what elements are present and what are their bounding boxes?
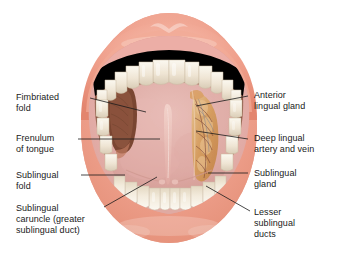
- label-anterior-lingual-gland: Anterior lingual gland: [254, 90, 305, 112]
- label-frenulum-of-tongue: Frenulum of tongue: [16, 133, 54, 155]
- label-fimbriated-fold: Fimbriated fold: [16, 92, 59, 114]
- label-deep-lingual-artery-vein: Deep lingual artery and vein: [254, 133, 314, 155]
- label-sublingual-caruncle: Sublingual caruncle (greater sublingual …: [16, 203, 85, 237]
- label-lesser-sublingual-ducts: Lesser sublingual ducts: [254, 207, 295, 241]
- label-sublingual-gland: Sublingual gland: [254, 168, 297, 190]
- label-sublingual-fold: Sublingual fold: [16, 170, 59, 192]
